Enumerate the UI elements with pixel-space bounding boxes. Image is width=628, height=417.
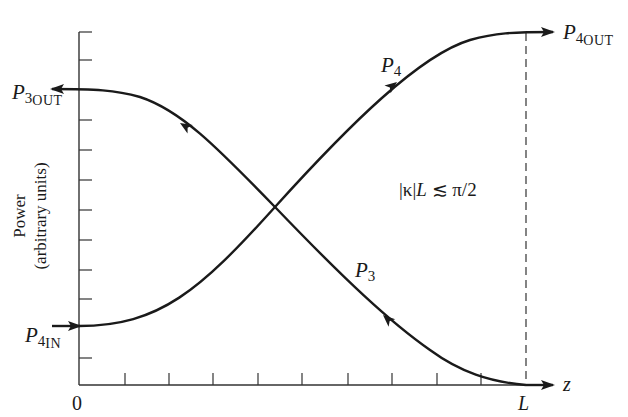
diagram-canvas	[0, 0, 628, 417]
y-axis	[79, 32, 92, 385]
y-axis-label: Power (arbitrary units)	[9, 162, 51, 269]
p4-in-label: P4IN	[25, 325, 61, 346]
coupling-condition-annotation: |κ|L ≲ π/2	[399, 180, 477, 199]
x-axis-end-label: L	[518, 393, 529, 413]
curve-p4	[79, 32, 553, 326]
p3-lower-direction-arrow-icon	[380, 311, 396, 326]
x-axis-ticks	[125, 373, 481, 385]
y-axis-label-line2: (arbitrary units)	[30, 162, 51, 269]
curve-p3	[52, 89, 526, 385]
p4-out-label: P4OUT	[563, 22, 614, 43]
p3-out-label: P3OUT	[12, 82, 63, 103]
y-axis-ticks	[79, 32, 92, 358]
p3-curve-label: P3	[355, 260, 375, 281]
direction-arrow-icons	[177, 78, 400, 327]
coupled-power-diagram: Power (arbitrary units) P3OUT P4IN P4OUT…	[0, 0, 628, 417]
y-axis-label-line1: Power	[9, 162, 30, 269]
x-axis-label: z	[563, 374, 571, 394]
p4-curve-label: P4	[381, 55, 401, 76]
x-axis-origin-label: 0	[72, 393, 82, 413]
